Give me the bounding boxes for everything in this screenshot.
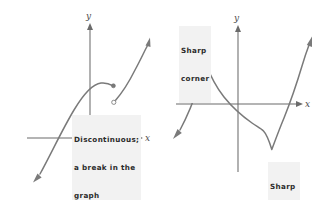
left-y-axis-arrowhead [87,23,93,30]
left-y-axis-label: y [85,11,92,21]
annotation-sharp-corner-top: Sharp corner [179,26,211,103]
sharp-corner-curve-end-arrowhead [307,37,312,48]
left-branch-closed-endpoint [111,84,115,88]
right-y-axis-label: y [233,13,240,23]
annotation-sharp-corner-bottom-line-1: Sharp [270,182,298,191]
right-branch-curve [115,46,147,101]
right-branch-end-arrowhead [146,38,151,48]
right-x-axis-label: x [305,99,310,109]
annotation-discontinuous-line-3: graph [74,191,139,200]
right-branch-open-endpoint [112,100,116,104]
annotation-sharp-corner-top-line-2: corner [181,74,209,83]
right-x-axis-arrowhead [296,101,303,107]
right-y-axis-arrowhead [235,25,241,32]
annotation-discontinuous-line-1: Discontinuous; [74,135,139,144]
annotation-discontinuous: Discontinuous; a break in the graph [72,115,141,200]
left-branch-start-arrowhead [33,174,42,183]
annotation-sharp-corner-top-line-1: Sharp [181,46,209,55]
figure-container: x y x y [0,0,320,200]
left-x-axis-label: x [145,133,150,143]
annotation-sharp-corner-bottom: Sharp corner [268,162,300,200]
annotation-discontinuous-line-2: a break in the [74,163,139,172]
